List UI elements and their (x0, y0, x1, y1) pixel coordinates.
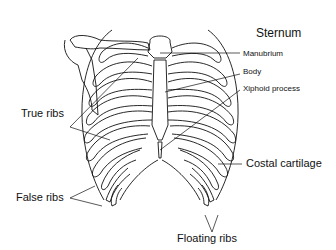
label-true-ribs: True ribs (21, 107, 64, 119)
label-xiphoid-process: Xiphoid process (243, 84, 300, 93)
sternum (148, 36, 172, 158)
ribs-left (84, 43, 152, 206)
rib-cage-outline (82, 30, 238, 200)
label-manubrium: Manubrium (243, 49, 283, 58)
label-floating-ribs: Floating ribs (177, 232, 237, 244)
label-false-ribs: False ribs (16, 191, 64, 203)
label-sternum: Sternum (256, 26, 301, 40)
label-costal-cartilage: Costal cartilage (246, 157, 322, 169)
ribs-right (168, 43, 236, 206)
costal-arch (120, 160, 200, 200)
label-body: Body (243, 67, 261, 76)
